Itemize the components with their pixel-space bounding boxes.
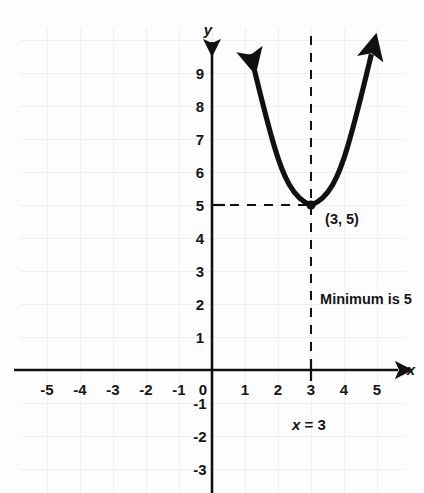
vertex-point	[306, 200, 315, 209]
plot-layer	[0, 0, 424, 493]
graph-figure: y x 9 8 7 6 5 4 3 2 1 -1 -2 -3 -5 -4 -3 …	[0, 0, 424, 493]
